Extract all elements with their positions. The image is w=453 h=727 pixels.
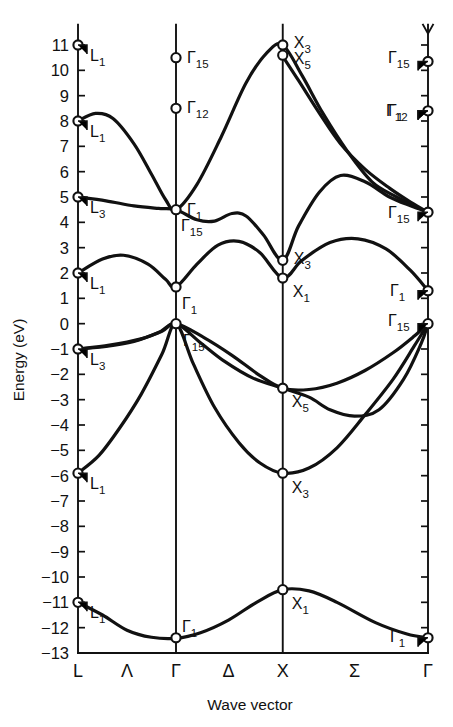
state-label: Γ1 — [182, 295, 197, 316]
y-tick-label: −2 — [50, 365, 69, 383]
bands-group — [78, 44, 428, 639]
state-marker — [171, 633, 180, 642]
y-tick-label: −8 — [50, 517, 69, 535]
state-label: Γ1 — [390, 282, 405, 303]
state-label: L1 — [90, 475, 105, 496]
state-label: L1 — [90, 123, 105, 144]
state-marker — [171, 53, 180, 62]
band-structure-figure: L1L1L3L1L3L1L1Γ15Γ12Γ1Γ15Γ1Γ15Γ1X3X5X3X1… — [0, 0, 453, 727]
y-tick-label: −13 — [41, 644, 69, 662]
y-tick-label: −11 — [42, 593, 69, 611]
state-label: Γ15 — [388, 312, 410, 333]
x-tick-label: Λ — [121, 661, 133, 681]
state-label: X1 — [292, 595, 309, 616]
y-tick-label: 10 — [51, 61, 69, 79]
state-label: Γ1 — [390, 628, 405, 649]
y-tick-label: −3 — [50, 391, 69, 409]
band-structure-svg: L1L1L3L1L3L1L1Γ15Γ12Γ1Γ15Γ1Γ15Γ1X3X5X3X1… — [0, 0, 453, 727]
y-axis-title: Energy (eV) — [10, 319, 27, 402]
state-label: Γ12 — [187, 99, 209, 120]
y-tick-label: 6 — [60, 163, 69, 181]
y-tick-label: 11 — [52, 36, 69, 54]
axes-group — [78, 25, 433, 653]
y-tick-label: −1 — [50, 340, 69, 358]
band-curve — [78, 589, 428, 639]
y-tick-label: −7 — [50, 492, 69, 510]
y-tick-label: −4 — [50, 416, 69, 434]
y-tick-label: 3 — [60, 239, 69, 257]
state-marker — [171, 319, 180, 328]
x-tick-label: Γ — [171, 661, 181, 681]
state-marker — [171, 282, 180, 291]
y-tick-label: 1 — [60, 289, 69, 307]
y-tick-label: −5 — [50, 441, 69, 459]
state-label: L1 — [90, 275, 105, 296]
state-marker — [171, 104, 180, 113]
y-tick-label: −9 — [50, 543, 69, 561]
state-label: Γ15 — [388, 49, 410, 70]
state-label: Γ15 — [187, 49, 209, 70]
y-tick-label: 7 — [60, 137, 69, 155]
state-marker — [278, 51, 287, 60]
band-curve — [78, 324, 428, 391]
y-tick-label: 2 — [60, 264, 69, 282]
y-tick-labels-group: 11109876543210−1−2−3−4−5−6−7−8−9−10−11−1… — [41, 36, 69, 662]
x-tick-label: Γ — [423, 661, 433, 681]
state-marker — [171, 205, 180, 214]
x-axis-title: Wave vector — [207, 696, 293, 713]
y-tick-label: −6 — [50, 467, 69, 485]
state-marker — [278, 384, 287, 393]
y-tick-label: −10 — [41, 568, 69, 586]
state-marker — [278, 256, 287, 265]
state-label: L1 — [90, 604, 105, 625]
state-label: Γ15 — [388, 204, 410, 225]
y-tick-label: 9 — [60, 87, 69, 105]
y-tick-label: 8 — [60, 112, 69, 130]
state-marker — [278, 469, 287, 478]
state-label: L3 — [90, 199, 105, 220]
state-label: L1 — [90, 47, 105, 68]
state-marker — [278, 273, 287, 282]
x-tick-label: Σ — [349, 661, 360, 681]
x-tick-label: X — [277, 661, 289, 681]
band-curve — [78, 238, 428, 290]
state-label: L3 — [90, 351, 105, 372]
state-label: X3 — [292, 479, 309, 500]
x-tick-labels-group: LΛΓΔXΣΓ — [73, 661, 433, 681]
y-tick-label: −12 — [41, 619, 69, 637]
state-marker — [278, 585, 287, 594]
y-tick-label: 0 — [60, 315, 69, 333]
y-tick-label: 4 — [60, 213, 69, 231]
y-tick-label: 5 — [60, 188, 69, 206]
x-tick-label: Δ — [222, 661, 234, 681]
x-tick-label: L — [73, 661, 83, 681]
state-label: X1 — [293, 283, 310, 304]
band-curve — [78, 324, 428, 474]
state-marker — [278, 40, 287, 49]
